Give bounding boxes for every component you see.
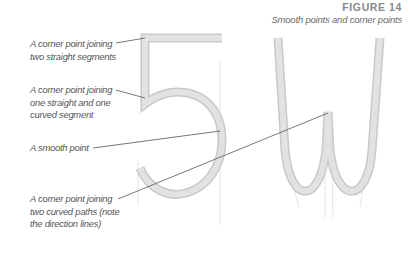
- callout-text: two straight segments: [30, 51, 116, 64]
- callout-text: A corner point joining: [30, 84, 112, 97]
- callout-text: two curved paths (note: [30, 206, 119, 219]
- callout-text: one straight and one: [30, 97, 112, 110]
- leader-smooth-point: [93, 131, 220, 148]
- callout-text: A corner point joining: [30, 193, 119, 206]
- callout-text: A corner point joining: [30, 38, 116, 51]
- glyph-w: [278, 38, 380, 218]
- glyph-five: [138, 38, 222, 225]
- callout-text: the direction lines): [30, 218, 119, 231]
- callout-text: A smooth point: [30, 142, 89, 155]
- callout-corner-straight-curved: A corner point joining one straight and …: [30, 84, 112, 122]
- callout-smooth-point: A smooth point: [30, 142, 89, 155]
- callout-corner-two-curved: A corner point joining two curved paths …: [30, 193, 119, 231]
- callout-corner-two-straight: A corner point joining two straight segm…: [30, 38, 116, 63]
- callout-text: curved segment: [30, 109, 112, 122]
